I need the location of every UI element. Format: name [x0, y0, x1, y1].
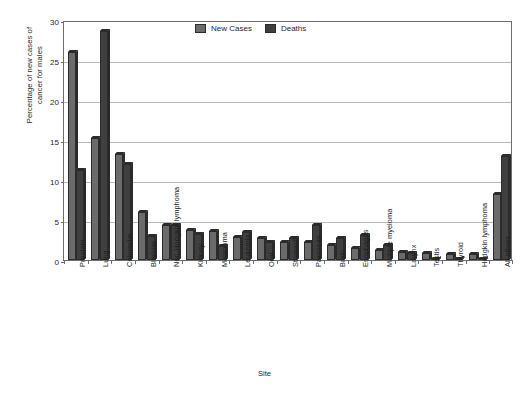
- bar-new-cases: [280, 242, 288, 260]
- x-tick-label: Multiple myeloma: [385, 209, 394, 267]
- bar-new-cases: [91, 138, 99, 260]
- bar-face: [68, 52, 76, 260]
- bar-new-cases: [186, 230, 194, 260]
- x-tick-label: Esophagus: [361, 230, 370, 267]
- x-tick-label: Colorectal: [125, 233, 134, 267]
- x-tick-mark: [206, 260, 207, 264]
- x-tick-mark: [489, 260, 490, 264]
- x-tick-mark: [135, 260, 136, 264]
- x-tick-mark: [442, 260, 443, 264]
- x-tick-label: Hodgkin lymphoma: [480, 203, 489, 267]
- bar-new-cases: [327, 245, 335, 260]
- x-tick-mark: [182, 260, 183, 264]
- bar-face: [209, 231, 217, 260]
- x-tick-mark: [253, 260, 254, 264]
- bar-new-cases: [115, 154, 123, 260]
- x-tick-label: Pancreas: [314, 235, 323, 267]
- x-tick-label: Leukemia: [243, 235, 252, 267]
- x-tick-label: Stomach: [291, 237, 300, 267]
- bar-new-cases: [375, 250, 383, 260]
- x-tick-label: Testis: [432, 248, 441, 267]
- legend-item: New Cases: [195, 24, 252, 33]
- x-tick-label: Bladder: [149, 241, 158, 267]
- bar-face: [186, 230, 194, 260]
- x-tick-label: Non-Hodgkin lymphoma: [172, 187, 181, 267]
- x-tick-mark: [300, 260, 301, 264]
- legend-item: Deaths: [265, 24, 306, 33]
- bar-face: [493, 194, 501, 260]
- bar-face: [138, 212, 146, 260]
- y-tick-label: 20: [25, 98, 64, 107]
- x-tick-label: Larynx: [409, 245, 418, 267]
- bar-face: [233, 237, 241, 260]
- bar-face: [351, 248, 359, 260]
- bar-face: [469, 254, 477, 260]
- bar-new-cases: [351, 248, 359, 260]
- bar-face: [100, 31, 108, 260]
- x-tick-mark: [159, 260, 160, 264]
- x-tick-label: Thyroid: [456, 242, 465, 267]
- x-tick-mark: [395, 260, 396, 264]
- deaths-swatch: [265, 24, 276, 33]
- legend-label: Deaths: [281, 24, 306, 33]
- y-tick-label: 10: [25, 178, 64, 187]
- x-tick-label: Lung: [101, 250, 110, 267]
- x-tick-label: Oral: [267, 253, 276, 267]
- bar-top: [422, 251, 432, 253]
- x-tick-mark: [229, 260, 230, 264]
- bar-face: [280, 242, 288, 260]
- bar-top: [68, 50, 78, 52]
- bar-new-cases: [493, 194, 501, 260]
- bar-top: [265, 240, 275, 242]
- plot-area: 051015202530: [63, 21, 512, 261]
- bar-chart: Percentage of new cases of cancer for ma…: [0, 0, 529, 394]
- x-tick-label: Prostate: [78, 239, 87, 267]
- bar-face: [162, 225, 170, 260]
- bar-top: [446, 252, 456, 254]
- bar-new-cases: [469, 254, 477, 260]
- bar-new-cases: [398, 252, 406, 260]
- x-tick-label: Kidney: [196, 244, 205, 267]
- y-tick-label: 25: [25, 58, 64, 67]
- bar-top: [257, 236, 267, 238]
- x-tick-mark: [277, 260, 278, 264]
- bar-face: [446, 254, 454, 260]
- bar-face: [91, 138, 99, 260]
- bar-new-cases: [446, 254, 454, 260]
- bar-new-cases: [422, 253, 430, 260]
- x-tick-label: All others: [503, 236, 512, 267]
- bar-face: [257, 238, 265, 260]
- x-tick-mark: [348, 260, 349, 264]
- bar-new-cases: [257, 238, 265, 260]
- x-tick-mark: [418, 260, 419, 264]
- y-tick-label: 5: [25, 218, 64, 227]
- bar-new-cases: [162, 225, 170, 260]
- x-axis-title: Site: [0, 369, 529, 378]
- x-tick-label: Brain: [338, 249, 347, 267]
- x-tick-label: Melanoma: [220, 232, 229, 267]
- new-cases-swatch: [195, 24, 206, 33]
- bar-face: [398, 252, 406, 260]
- bar-face: [115, 154, 123, 260]
- bar-face: [375, 250, 383, 260]
- bar-top: [242, 230, 252, 232]
- bar-side: [108, 29, 110, 260]
- x-tick-mark: [371, 260, 372, 264]
- x-tick-mark: [512, 260, 513, 264]
- x-tick-mark: [111, 260, 112, 264]
- bar-deaths: [100, 31, 108, 260]
- bar-face: [327, 245, 335, 260]
- bar-new-cases: [138, 212, 146, 260]
- y-tick-label: 0: [25, 258, 64, 267]
- bar-face: [422, 253, 430, 260]
- x-tick-mark: [64, 260, 65, 264]
- y-tick-label: 15: [25, 138, 64, 147]
- bar-top: [115, 152, 125, 154]
- chart-legend: New CasesDeaths: [195, 24, 306, 33]
- x-tick-mark: [88, 260, 89, 264]
- bars-layer: [64, 22, 511, 260]
- x-tick-mark: [466, 260, 467, 264]
- bar-new-cases: [209, 231, 217, 260]
- y-tick-label: 30: [25, 18, 64, 27]
- bar-face: [304, 242, 312, 260]
